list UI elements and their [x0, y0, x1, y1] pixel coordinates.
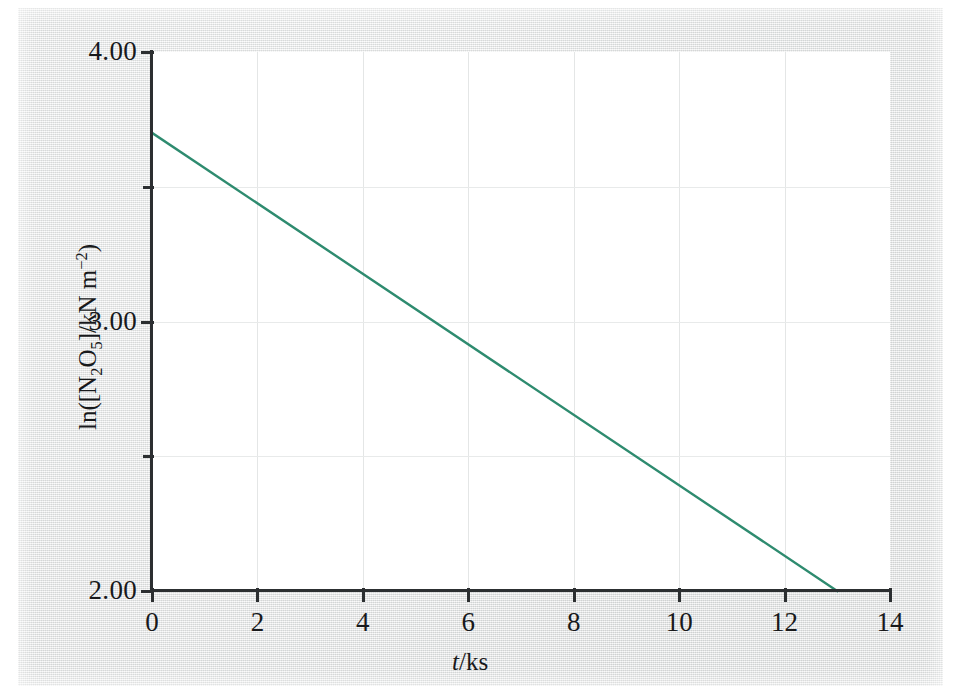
x-axis-line — [150, 589, 892, 592]
y-axis-title-sup: −2 — [72, 252, 91, 270]
y-axis-tick-label: 4.00 — [47, 36, 137, 67]
x-axis-tick — [889, 588, 892, 602]
y-axis-tick-major — [141, 51, 154, 54]
y-axis-tick-minor — [143, 455, 154, 458]
x-axis-tick-label: 10 — [644, 607, 714, 638]
x-axis-tick — [256, 588, 259, 602]
x-axis-title: t/ks — [452, 648, 488, 676]
plot-area — [152, 52, 890, 591]
x-axis-tick — [151, 588, 154, 602]
x-axis-tick-label: 0 — [117, 607, 187, 638]
x-axis-tick-label: 6 — [433, 607, 503, 638]
x-axis-tick-label: 14 — [855, 607, 925, 638]
y-axis-title-sub-2: 5 — [87, 341, 106, 349]
y-axis-title-middle: ]/kN m — [74, 270, 101, 342]
x-axis-title-rest: /ks — [459, 648, 488, 675]
x-axis-tick — [573, 588, 576, 602]
x-axis-tick-label: 8 — [539, 607, 609, 638]
y-axis-title-sub-1: 2 — [87, 368, 106, 376]
x-axis-tick — [362, 588, 365, 602]
y-axis-title-prefix: ln([N — [74, 376, 101, 430]
y-axis-title: ln([N2O5]/kN m−2) — [72, 244, 107, 430]
y-axis-tick-minor — [143, 186, 154, 189]
x-axis-tick-label: 12 — [750, 607, 820, 638]
y-axis-tick-major — [141, 321, 154, 324]
y-axis-title-suffix: ) — [74, 244, 101, 252]
y-axis-tick-label: 2.00 — [47, 575, 137, 606]
x-axis-tick-label: 4 — [328, 607, 398, 638]
series-line-ln-n2o5 — [152, 133, 837, 591]
x-axis-tick-label: 2 — [222, 607, 292, 638]
figure-root: 2.003.004.00 02468101214 ln([N2O5]/kN m−… — [0, 0, 961, 700]
y-axis-title-element-2: O — [74, 350, 101, 368]
x-axis-title-italic: t — [452, 648, 459, 675]
x-axis-tick — [678, 588, 681, 602]
x-axis-tick — [784, 588, 787, 602]
x-axis-tick — [467, 588, 470, 602]
data-series-canvas — [152, 52, 890, 591]
